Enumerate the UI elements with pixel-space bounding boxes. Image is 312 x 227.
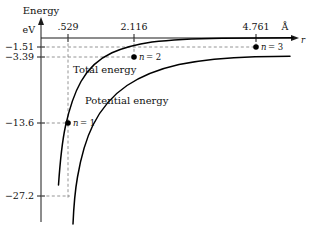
level-dot-n3 [253,44,259,50]
y-axis-arrowhead [38,17,44,25]
y-tick-label-272: −27.2 [5,190,34,201]
annotation-n3-value: = 3 [268,42,283,52]
annotation-n1: n= 1 [73,118,95,128]
x-axis-unit-label: Å [281,21,289,32]
annotation-n3-symbol: n [261,42,266,52]
x-axis-variable-label: r [301,35,306,45]
y-tick-label-339: −3.39 [5,51,34,62]
annotation-n2-symbol: n [139,52,144,62]
annotation-n1-value: = 1 [80,118,95,128]
annotation-n2: n= 2 [139,52,161,62]
bohr-energy-diagram: Energy eV Å r .529 2.116 4.761 −1.51 −3.… [0,0,312,227]
annotation-n3: n= 3 [261,42,283,52]
annotation-n2-text: n= 2 [139,52,161,62]
potential-energy-curve [73,56,290,224]
y-tick-label-136: −13.6 [5,117,34,128]
level-dot-n1 [65,120,71,126]
potential-energy-curve-label: Potential energy [85,95,169,106]
annotation-n2-value: = 2 [146,52,161,62]
total-energy-curve [59,38,294,185]
figure-canvas: Energy eV Å r .529 2.116 4.761 −1.51 −3.… [0,0,312,227]
y-axis-title: Energy [23,5,60,16]
annotation-n1-text: n= 1 [73,118,95,128]
x-tick-label-2116: 2.116 [120,21,147,32]
annotation-n1-symbol: n [73,118,78,128]
y-axis-unit-label: eV [23,24,36,35]
annotation-n3-text: n= 3 [261,42,283,52]
x-tick-label-4761: 4.761 [242,21,269,32]
total-energy-curve-label: Total energy [73,64,137,75]
level-dots-group [65,44,259,126]
x-tick-label-0529: .529 [57,21,78,32]
level-dot-n2 [131,54,137,60]
